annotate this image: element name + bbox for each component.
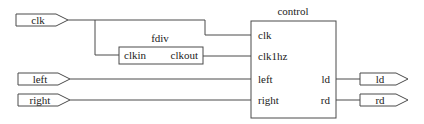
port-clk: clk <box>258 29 272 41</box>
schematic-canvas: clk left right fdiv clkin clkout control… <box>0 0 424 124</box>
output-port-rd: rd <box>360 94 408 106</box>
module-control: control clk clk1hz left right ld rd <box>251 5 336 118</box>
port-left: left <box>258 73 273 85</box>
output-port-ld: ld <box>360 73 408 85</box>
module-title: control <box>277 5 308 17</box>
port-right: right <box>258 94 279 106</box>
input-port-clk: clk <box>16 14 68 26</box>
wire-clk-to-fdiv <box>95 20 119 55</box>
port-clkout: clkout <box>171 49 199 61</box>
input-port-label: left <box>33 73 48 85</box>
port-clk1hz: clk1hz <box>258 50 287 62</box>
module-fdiv: fdiv clkin clkout <box>119 32 203 64</box>
port-rd: rd <box>321 94 331 106</box>
input-port-left: left <box>18 73 70 85</box>
input-port-label: right <box>30 94 51 106</box>
module-title: fdiv <box>151 32 169 44</box>
input-port-label: clk <box>31 14 45 26</box>
output-port-label: ld <box>376 73 385 85</box>
port-clkin: clkin <box>124 49 146 61</box>
output-port-label: rd <box>375 94 385 106</box>
port-ld: ld <box>321 73 330 85</box>
input-port-right: right <box>18 94 70 106</box>
